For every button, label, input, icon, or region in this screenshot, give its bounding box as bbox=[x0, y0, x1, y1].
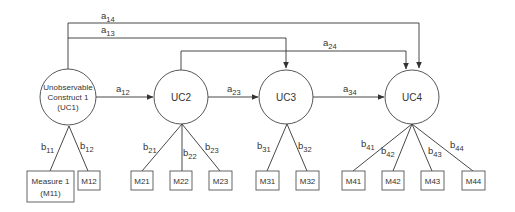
svg-text:a24: a24 bbox=[323, 37, 337, 51]
svg-text:a14: a14 bbox=[101, 10, 115, 24]
svg-text:b12: b12 bbox=[80, 140, 94, 154]
loadings-uc1: b11 b12 bbox=[41, 126, 94, 171]
measure-m31: M31 bbox=[256, 171, 279, 190]
svg-text:UC4: UC4 bbox=[402, 92, 422, 103]
construct-uc1: Unobservable Construct 1 (UC1) bbox=[40, 69, 96, 125]
construct-uc4: UC4 bbox=[385, 70, 439, 124]
svg-text:Measure 1: Measure 1 bbox=[32, 177, 70, 186]
path-a23: a23 bbox=[208, 83, 258, 97]
svg-text:(UC1): (UC1) bbox=[57, 103, 79, 112]
svg-text:M32: M32 bbox=[300, 177, 316, 186]
measure-m43: M43 bbox=[421, 171, 444, 190]
svg-text:M21: M21 bbox=[134, 177, 150, 186]
svg-text:Unobservable: Unobservable bbox=[43, 83, 93, 92]
svg-text:a12: a12 bbox=[116, 83, 130, 97]
measure-m41: M41 bbox=[342, 171, 365, 190]
measure-m44: M44 bbox=[462, 171, 485, 190]
construct-uc3: UC3 bbox=[259, 70, 313, 124]
svg-text:a13: a13 bbox=[101, 24, 115, 38]
svg-text:b22: b22 bbox=[183, 147, 197, 161]
path-a12: a12 bbox=[96, 83, 153, 97]
structural-model-diagram: a14 a13 a24 a12 a23 a34 b11 b12 b21 b22 … bbox=[0, 0, 515, 212]
measure-m21: M21 bbox=[131, 171, 153, 190]
svg-text:b11: b11 bbox=[41, 141, 54, 155]
measure-m23: M23 bbox=[209, 171, 232, 190]
measure-m42: M42 bbox=[382, 171, 404, 190]
loadings-uc3: b31 b32 bbox=[257, 124, 312, 171]
measure-m22: M22 bbox=[170, 171, 192, 190]
measure-m12: M12 bbox=[78, 171, 100, 190]
svg-text:b41: b41 bbox=[361, 138, 375, 152]
svg-text:Construct 1: Construct 1 bbox=[48, 93, 89, 102]
measure-m11: Measure 1 (M11) bbox=[27, 171, 74, 202]
svg-text:UC2: UC2 bbox=[171, 92, 191, 103]
path-a34: a34 bbox=[313, 83, 384, 97]
path-a24: a24 bbox=[181, 37, 406, 70]
svg-text:(M11): (M11) bbox=[40, 189, 61, 198]
svg-text:M42: M42 bbox=[385, 177, 401, 186]
svg-text:M22: M22 bbox=[173, 177, 189, 186]
svg-text:M23: M23 bbox=[213, 177, 229, 186]
svg-text:b42: b42 bbox=[381, 145, 395, 159]
path-a14: a14 bbox=[68, 10, 419, 69]
svg-text:b21: b21 bbox=[143, 141, 157, 155]
svg-text:b31: b31 bbox=[257, 140, 271, 154]
construct-uc2: UC2 bbox=[154, 70, 208, 124]
svg-text:a34: a34 bbox=[343, 83, 357, 97]
path-a13: a13 bbox=[68, 24, 286, 68]
svg-text:UC3: UC3 bbox=[276, 92, 296, 103]
svg-text:M12: M12 bbox=[81, 177, 97, 186]
svg-text:M41: M41 bbox=[346, 177, 362, 186]
svg-text:M44: M44 bbox=[466, 177, 482, 186]
svg-text:b23: b23 bbox=[205, 141, 219, 155]
measure-m32: M32 bbox=[296, 171, 319, 190]
svg-text:M43: M43 bbox=[425, 177, 441, 186]
svg-text:a23: a23 bbox=[227, 83, 241, 97]
svg-text:b32: b32 bbox=[298, 140, 312, 154]
loadings-uc2: b21 b22 b23 bbox=[142, 124, 220, 171]
loadings-uc4: b41 b42 b43 b44 bbox=[353, 124, 473, 171]
svg-text:b44: b44 bbox=[450, 139, 464, 153]
svg-text:M31: M31 bbox=[260, 177, 276, 186]
svg-text:b43: b43 bbox=[428, 145, 442, 159]
